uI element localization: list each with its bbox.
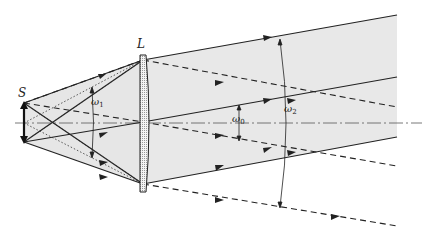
lens: [140, 55, 149, 192]
source-label: S: [18, 86, 26, 100]
optics-diagram: S L ω1 ω0 ω2: [0, 0, 430, 239]
beam-before-lens: [24, 60, 143, 184]
lens-label: L: [136, 37, 145, 51]
